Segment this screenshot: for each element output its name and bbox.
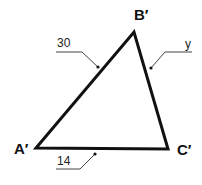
side-label-bc: y: [185, 37, 191, 51]
triangle-a-b-c: [36, 32, 168, 149]
vertex-label-c: C′: [177, 141, 192, 158]
vertex-label-a: A′: [14, 140, 29, 157]
triangle-diagram: A′ B′ C′ 30 y 14: [0, 0, 202, 185]
vertex-label-b: B′: [134, 6, 149, 23]
side-label-ab: 30: [57, 36, 71, 50]
side-label-ac: 14: [57, 154, 71, 168]
leader-side-bc: [149, 52, 192, 70]
leader-side-ab: [56, 52, 100, 69]
